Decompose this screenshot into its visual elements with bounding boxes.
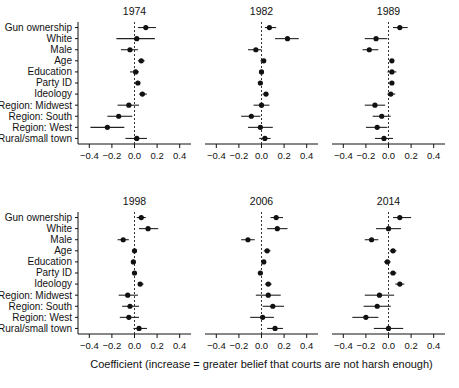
x-tick-label-1989-1: −0.2 <box>357 150 376 161</box>
row-label-1: White <box>46 223 72 234</box>
row-label-5: Party ID <box>36 77 72 88</box>
row-label-1: White <box>46 33 72 44</box>
x-tick-label-2006-0: −0.4 <box>207 340 226 351</box>
x-tick-label-2006-3: 0.2 <box>277 340 290 351</box>
estimate-point-1974-1 <box>134 36 139 41</box>
panel-title-1974: 1974 <box>123 5 147 17</box>
estimate-point-1998-1 <box>145 226 150 231</box>
row-label-8: Region: South <box>9 301 72 312</box>
estimate-point-1989-4 <box>389 69 394 74</box>
estimate-point-1998-0 <box>139 215 144 220</box>
estimate-point-1998-8 <box>127 304 132 309</box>
row-label-3: Age <box>54 245 72 256</box>
x-tick-label-2014-1: −0.2 <box>357 340 376 351</box>
x-tick-label-1974-2: 0.0 <box>128 150 141 161</box>
estimate-point-1998-9 <box>126 315 131 320</box>
x-tick-label-1989-2: 0.0 <box>382 150 395 161</box>
estimate-point-2014-0 <box>397 215 402 220</box>
x-tick-label-1989-3: 0.2 <box>404 150 417 161</box>
row-label-6: Ideology <box>34 88 72 99</box>
estimate-point-2014-10 <box>386 326 391 331</box>
estimate-point-1998-6 <box>138 281 143 286</box>
estimate-point-1989-8 <box>379 114 384 119</box>
estimate-point-1989-0 <box>397 25 402 30</box>
estimate-point-1998-2 <box>121 237 126 242</box>
panel-title-2014: 2014 <box>377 195 401 207</box>
estimate-point-2006-5 <box>258 270 263 275</box>
estimate-point-2014-2 <box>369 237 374 242</box>
estimate-point-2014-1 <box>386 226 391 231</box>
estimate-point-1982-4 <box>259 69 264 74</box>
estimate-point-1998-3 <box>132 248 137 253</box>
estimate-point-1974-8 <box>116 114 121 119</box>
panel-title-1989: 1989 <box>377 5 401 17</box>
estimate-point-2006-6 <box>266 281 271 286</box>
row-label-4: Education <box>28 66 72 77</box>
estimate-point-1974-7 <box>126 103 131 108</box>
estimate-point-1989-10 <box>381 136 386 141</box>
estimate-point-1982-5 <box>258 80 263 85</box>
x-tick-label-1974-3: 0.2 <box>150 150 163 161</box>
estimate-point-1989-9 <box>375 125 380 130</box>
estimate-point-2014-9 <box>363 315 368 320</box>
row-label-10: Rural/small town <box>0 133 72 144</box>
estimate-point-1989-7 <box>372 103 377 108</box>
row-label-7: Region: Midwest <box>0 100 72 111</box>
estimate-point-1998-7 <box>125 293 130 298</box>
estimate-point-2006-3 <box>265 248 270 253</box>
x-tick-label-2006-2: 0.0 <box>255 340 268 351</box>
estimate-point-2014-8 <box>375 304 380 309</box>
row-label-2: Male <box>50 234 72 245</box>
estimate-point-2006-7 <box>266 293 271 298</box>
panel-title-2006: 2006 <box>250 195 274 207</box>
row-label-10: Rural/small town <box>0 323 72 334</box>
estimate-point-1982-1 <box>285 36 290 41</box>
panel-title-1982: 1982 <box>250 5 274 17</box>
coefficient-plot-figure: 1974Gun ownershipWhiteMaleAgeEducationPa… <box>0 0 459 388</box>
row-label-5: Party ID <box>36 267 72 278</box>
estimate-point-2006-4 <box>261 259 266 264</box>
x-tick-label-1974-0: −0.4 <box>80 150 99 161</box>
row-label-2: Male <box>50 44 72 55</box>
x-tick-label-1998-1: −0.2 <box>103 340 122 351</box>
x-tick-label-1998-2: 0.0 <box>128 340 141 351</box>
estimate-point-2014-3 <box>390 248 395 253</box>
estimate-point-1982-7 <box>259 103 264 108</box>
x-axis-caption: Coefficient (increase = greater belief t… <box>90 358 433 370</box>
coefficient-plot-svg: 1974Gun ownershipWhiteMaleAgeEducationPa… <box>0 0 459 388</box>
row-label-3: Age <box>54 55 72 66</box>
row-label-7: Region: Midwest <box>0 290 72 301</box>
estimate-point-2006-10 <box>272 326 277 331</box>
estimate-point-1982-2 <box>253 47 258 52</box>
x-tick-label-1989-4: 0.4 <box>427 150 440 161</box>
x-tick-label-1982-4: 0.4 <box>300 150 313 161</box>
estimate-point-1974-2 <box>127 47 132 52</box>
estimate-point-1998-10 <box>136 326 141 331</box>
row-label-8: Region: South <box>9 111 72 122</box>
x-tick-label-1982-2: 0.0 <box>255 150 268 161</box>
estimate-point-1989-5 <box>389 80 394 85</box>
x-tick-label-1982-0: −0.4 <box>207 150 226 161</box>
estimate-point-2014-5 <box>390 270 395 275</box>
estimate-point-1982-9 <box>258 125 263 130</box>
estimate-point-2006-9 <box>260 315 265 320</box>
estimate-point-1974-3 <box>139 58 144 63</box>
estimate-point-2014-7 <box>377 293 382 298</box>
row-label-9: Region: West <box>12 122 72 133</box>
x-tick-label-2014-3: 0.2 <box>404 340 417 351</box>
estimate-point-1989-1 <box>373 36 378 41</box>
row-label-4: Education <box>28 256 72 267</box>
estimate-point-1982-6 <box>263 91 268 96</box>
x-tick-label-2014-4: 0.4 <box>427 340 440 351</box>
estimate-point-1974-6 <box>140 91 145 96</box>
x-tick-label-1974-4: 0.4 <box>173 150 186 161</box>
estimate-point-1982-8 <box>249 114 254 119</box>
estimate-point-1989-6 <box>388 91 393 96</box>
x-tick-label-1982-1: −0.2 <box>230 150 249 161</box>
x-tick-label-1998-4: 0.4 <box>173 340 186 351</box>
estimate-point-2006-0 <box>274 215 279 220</box>
estimate-point-1998-4 <box>131 259 136 264</box>
estimate-point-1989-2 <box>367 47 372 52</box>
x-tick-label-2014-0: −0.4 <box>334 340 353 351</box>
estimate-point-1974-5 <box>135 80 140 85</box>
